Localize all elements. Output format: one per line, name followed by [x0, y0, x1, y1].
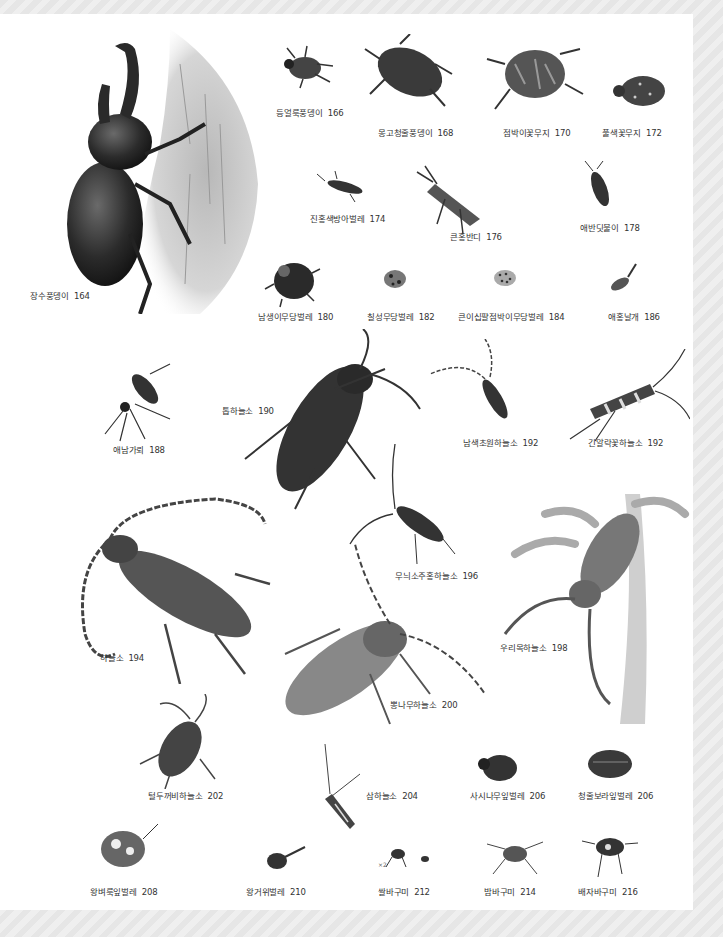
scarab-beetle-illustration: [275, 44, 335, 89]
species-label: 큰이십팔점박이무당벌레184: [458, 310, 564, 322]
species-label: 등얼룩풍뎅이166: [276, 106, 343, 118]
seven-spot-ladybird-illustration: [375, 264, 415, 294]
species-label: 풀색꽃무지172: [602, 126, 662, 138]
leaf-rolling-weevil-illustration: [255, 839, 310, 879]
species-label: 무늬소주홍하늘소196: [395, 569, 478, 581]
twenty-eight-spot-ladybird-illustration: [490, 266, 520, 291]
flea-beetle-illustration: [88, 819, 163, 874]
rhinoceros-beetle-illustration: [20, 24, 260, 314]
species-label: 왕벼룩잎벌레208: [90, 885, 157, 897]
species-label: 긴알락꽃하늘소192: [588, 436, 663, 448]
species-label: 장수풍뎅이164: [30, 289, 90, 301]
flower-longhorn-illustration: [555, 349, 690, 444]
poplar-leaf-beetle-illustration: [470, 744, 525, 789]
flower-chafer-illustration: [485, 34, 585, 114]
baeja-weevil-illustration: [580, 829, 640, 879]
species-label: 쌀바구미212: [378, 885, 430, 897]
net-winged-beetle-illustration: [415, 164, 495, 239]
species-label: 청줄보라잎벌레206: [578, 789, 653, 801]
species-label: 점박이꽃무지170: [503, 126, 570, 138]
chestnut-weevil-illustration: [485, 834, 545, 879]
click-beetle-illustration: [315, 169, 370, 204]
hemp-longhorn-illustration: [310, 744, 365, 839]
species-label: 삼하늘소204: [366, 789, 418, 801]
blue-longhorn-illustration: [425, 339, 530, 429]
species-label: 우리목하늘소198: [500, 641, 567, 653]
species-label: 남색초원하늘소192: [463, 436, 538, 448]
species-label: 칠성무당벌레182: [367, 310, 434, 322]
species-label: 애남가뢰188: [113, 443, 165, 455]
mongolian-chafer-illustration: [360, 34, 455, 109]
species-label: 뽕나무하늘소200: [390, 698, 457, 710]
species-label: 남생이무당벌레180: [258, 310, 333, 322]
blister-beetle-illustration: [95, 359, 180, 444]
species-label: 왕거위벌레210: [246, 885, 306, 897]
species-label: 톱하늘소190: [222, 404, 274, 416]
species-label: 애홍날개186: [608, 310, 660, 322]
species-label: 진홍색방아벌레174: [310, 212, 385, 224]
species-label: 털두꺼비하늘소202: [148, 789, 223, 801]
species-label: 하늘소194: [100, 651, 144, 663]
species-label: 애반딧불이178: [580, 221, 640, 233]
longhorn-beetle-illustration: [65, 494, 275, 684]
species-label: 배자바구미216: [578, 885, 638, 897]
species-label: 큰홍반디176: [450, 230, 502, 242]
ladybird-large-illustration: [262, 249, 322, 309]
species-label: 밤바구미214: [484, 885, 536, 897]
rice-weevil-illustration: [380, 839, 440, 874]
blue-leaf-beetle-illustration: [578, 742, 643, 787]
book-page: 장수풍뎅이164 등얼룩풍뎅이166 몽고청줄풍뎅이168 점박이꽃무지170 …: [0, 14, 693, 910]
species-label: 몽고청줄풍뎅이168: [378, 126, 453, 138]
toad-longhorn-illustration: [135, 694, 225, 789]
firefly-illustration: [575, 159, 620, 214]
korean-longhorn-illustration: [485, 484, 690, 724]
scale-annotation: ×2: [378, 861, 387, 868]
fire-colored-beetle-illustration: [600, 259, 645, 299]
species-label: 사시나무잎벌레206: [470, 789, 545, 801]
green-flower-chafer-illustration: [605, 69, 670, 114]
